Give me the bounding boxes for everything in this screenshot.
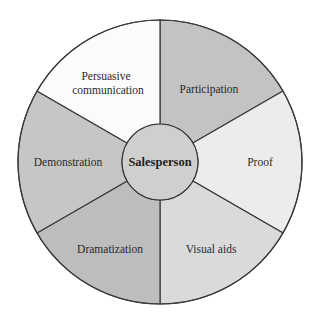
segment-label-visual-aids: Visual aids — [186, 243, 237, 255]
sales-presentation-wheel: Salesperson Participation Proof Visual a… — [0, 0, 313, 323]
center-label: Salesperson — [128, 155, 191, 169]
segment-label-proof: Proof — [247, 156, 273, 168]
segment-label-persuasive-line2: communication — [72, 84, 144, 96]
segment-label-persuasive-line1: Persuasive — [81, 70, 130, 82]
segment-label-dramatization: Dramatization — [77, 243, 143, 255]
segment-label-participation: Participation — [180, 83, 239, 96]
segment-label-demonstration: Demonstration — [34, 156, 103, 168]
